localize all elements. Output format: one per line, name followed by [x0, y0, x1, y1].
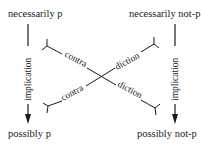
left-implication-label: implication	[23, 57, 33, 101]
right-arrowhead-icon	[172, 114, 178, 124]
modal-square-diagram: necessarily p necessarily not-p possibly…	[0, 0, 201, 151]
contradiction-edge-tr-bl: diction contra	[43, 37, 159, 113]
lower-right-diction-label: diction	[116, 79, 144, 100]
lower-left-contra-label: contra	[59, 82, 85, 102]
node-possibly-not-p: possibly not-p	[137, 128, 197, 139]
left-arrowhead-icon	[25, 114, 31, 124]
right-implication-label: implication	[170, 57, 180, 101]
upper-left-contra-label: contra	[63, 49, 89, 69]
right-implication-edge: implication	[170, 24, 180, 124]
node-possibly-p: possibly p	[8, 128, 51, 139]
node-necessarily-not-p: necessarily not-p	[129, 8, 200, 19]
node-necessarily-p: necessarily p	[8, 8, 63, 19]
left-implication-edge: implication	[23, 24, 33, 124]
upper-right-diction-label: diction	[113, 50, 141, 71]
